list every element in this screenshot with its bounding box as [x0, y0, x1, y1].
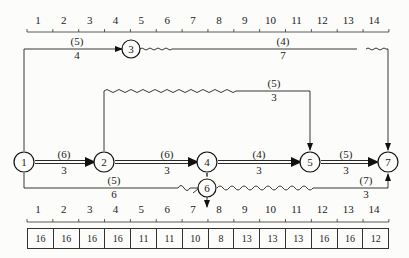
svg-text:7: 7 [385, 156, 391, 168]
top-scale-label-12: 12 [317, 14, 328, 26]
activity-1-6-duration: 6 [111, 188, 117, 200]
activity-6-7-resource: (7) [360, 174, 373, 187]
resource-cell-day-2: 16 [54, 229, 80, 248]
activity-5-7-resource: (5) [340, 148, 353, 161]
resource-cell-day-6: 11 [157, 229, 183, 248]
top-scale-label-4: 4 [113, 14, 119, 26]
resource-table: 161616161111108131313161612 [27, 228, 389, 249]
activity-1-2-duration: 3 [61, 164, 67, 176]
top-scale-label-11: 11 [291, 14, 302, 26]
resource-cell-day-13: 16 [338, 229, 364, 248]
svg-text:4: 4 [204, 156, 210, 168]
bottom-scale-label-6: 6 [164, 203, 170, 215]
activity-4-5-resource: (4) [253, 148, 266, 161]
resource-cell-day-10: 13 [260, 229, 286, 248]
activity-2-5-resource: (5) [268, 77, 281, 90]
critical-arrowheads [85, 157, 379, 167]
activity-2-4-resource: (6) [161, 148, 174, 161]
network-diagram: 1234567891011121314 1234567891011121314 … [0, 0, 409, 258]
bottom-scale-label-1: 1 [35, 203, 41, 215]
resource-cell-day-9: 13 [234, 229, 260, 248]
bottom-scale-label-14: 14 [368, 203, 380, 215]
bottom-scale-label-11: 11 [291, 203, 302, 215]
top-time-scale-labels: 1234567891011121314 [35, 14, 380, 26]
bottom-scale-label-4: 4 [113, 203, 119, 215]
top-scale-label-10: 10 [265, 14, 277, 26]
top-scale-label-9: 9 [242, 14, 248, 26]
activity-2-5 [104, 90, 310, 152]
resource-cell-day-11: 13 [286, 229, 312, 248]
activity-1-6-resource: (5) [108, 174, 121, 187]
bottom-scale-label-2: 2 [61, 203, 67, 215]
top-scale-label-2: 2 [61, 14, 67, 26]
activity-2-4-duration: 3 [164, 164, 170, 176]
resource-cell-day-1: 16 [28, 229, 54, 248]
bottom-scale-label-5: 5 [139, 203, 145, 215]
top-time-scale [27, 29, 389, 32]
activity-2-5-duration: 3 [271, 91, 277, 103]
bottom-scale-label-7: 7 [190, 203, 196, 215]
top-scale-label-7: 7 [190, 14, 196, 26]
resource-cell-day-5: 11 [131, 229, 157, 248]
activity-1-3-resource: (5) [71, 35, 84, 48]
resource-cell-day-3: 16 [80, 229, 106, 248]
resource-cell-day-7: 10 [183, 229, 209, 248]
bottom-time-scale [27, 219, 389, 222]
activity-6-7-duration: 3 [363, 188, 369, 200]
resource-cell-day-8: 8 [209, 229, 235, 248]
resource-cell-day-12: 16 [312, 229, 338, 248]
activity-5-7-duration: 3 [343, 164, 349, 176]
svg-text:2: 2 [101, 156, 107, 168]
node-6: 6 [198, 179, 216, 197]
top-scale-label-14: 14 [368, 14, 380, 26]
node-5: 5 [300, 152, 320, 172]
activity-1-2-resource: (6) [58, 148, 71, 161]
svg-text:5: 5 [307, 156, 313, 168]
node-2: 2 [94, 152, 114, 172]
svg-text:1: 1 [21, 156, 27, 168]
top-scale-label-6: 6 [164, 14, 170, 26]
node-4: 4 [197, 152, 217, 172]
activity-1-3 [24, 49, 122, 151]
node-3: 3 [122, 40, 140, 58]
svg-text:3: 3 [128, 43, 134, 55]
svg-text:6: 6 [204, 182, 210, 194]
resource-cell-day-4: 16 [105, 229, 131, 248]
activity-4-5-duration: 3 [256, 164, 262, 176]
activity-1-3-duration: 4 [74, 49, 80, 61]
top-scale-label-3: 3 [87, 14, 93, 26]
bottom-time-scale-labels: 1234567891011121314 [35, 203, 380, 215]
bottom-scale-label-9: 9 [242, 203, 248, 215]
node-7: 7 [378, 152, 398, 172]
activity-3-7 [140, 48, 388, 150]
node-1: 1 [14, 152, 34, 172]
bottom-scale-label-12: 12 [317, 203, 328, 215]
activity-3-7-resource: (4) [277, 35, 290, 48]
top-scale-label-13: 13 [343, 14, 355, 26]
bottom-scale-label-8: 8 [216, 203, 222, 215]
resource-cell-day-14: 12 [363, 229, 388, 248]
bottom-scale-label-13: 13 [343, 203, 355, 215]
top-scale-label-5: 5 [139, 14, 145, 26]
bottom-scale-label-10: 10 [265, 203, 277, 215]
bottom-scale-label-3: 3 [87, 203, 93, 215]
activity-3-7-duration: 7 [280, 49, 286, 61]
top-scale-label-1: 1 [35, 14, 41, 26]
top-scale-label-8: 8 [216, 14, 222, 26]
